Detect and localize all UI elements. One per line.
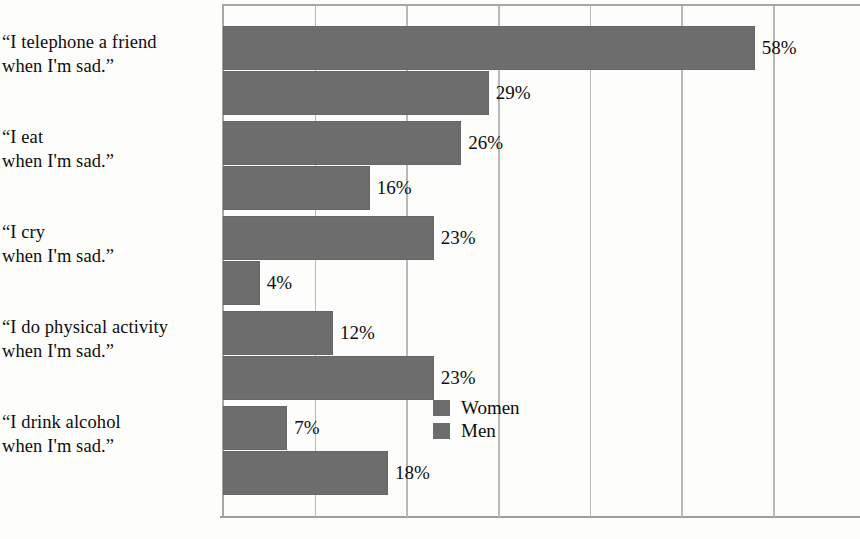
legend-swatch-women: [433, 400, 450, 416]
bar-women-1: [223, 121, 461, 165]
bar-women-3: [223, 311, 333, 355]
bar-value-women-2: 23%: [441, 228, 476, 247]
bar-women-4: [223, 406, 287, 450]
bar-men-2: [223, 261, 260, 305]
legend-label-women: Women: [461, 398, 520, 417]
bar-value-men-3: 23%: [441, 368, 476, 387]
category-label-3: “I do physical activity when I'm sad.”: [2, 315, 220, 363]
chart-legend: WomenMen: [433, 396, 583, 442]
category-label-4: “I drink alcohol when I'm sad.”: [2, 410, 220, 458]
bar-value-men-2: 4%: [267, 273, 292, 292]
bar-value-men-0: 29%: [496, 83, 531, 102]
bar-chart: “I telephone a friend when I'm sad.”“I e…: [0, 0, 860, 539]
bar-women-2: [223, 216, 434, 260]
bar-men-4: [223, 451, 388, 495]
bar-value-men-1: 16%: [377, 178, 412, 197]
bar-men-1: [223, 166, 370, 210]
category-label-0: “I telephone a friend when I'm sad.”: [2, 30, 220, 78]
bar-men-3: [223, 356, 434, 400]
legend-item-women[interactable]: Women: [433, 396, 583, 419]
bar-value-women-3: 12%: [340, 323, 375, 342]
category-axis-labels: “I telephone a friend when I'm sad.”“I e…: [0, 0, 222, 539]
category-label-1: “I eat when I'm sad.”: [2, 125, 220, 173]
category-label-2: “I cry when I'm sad.”: [2, 220, 220, 268]
legend-item-men[interactable]: Men: [433, 419, 583, 442]
bar-women-0: [223, 26, 755, 70]
legend-swatch-men: [433, 423, 450, 439]
legend-label-men: Men: [461, 421, 496, 440]
bar-value-women-4: 7%: [294, 418, 319, 437]
bar-value-women-1: 26%: [468, 133, 503, 152]
bar-value-men-4: 18%: [395, 463, 430, 482]
bar-value-women-0: 58%: [762, 38, 797, 57]
bar-men-0: [223, 71, 489, 115]
